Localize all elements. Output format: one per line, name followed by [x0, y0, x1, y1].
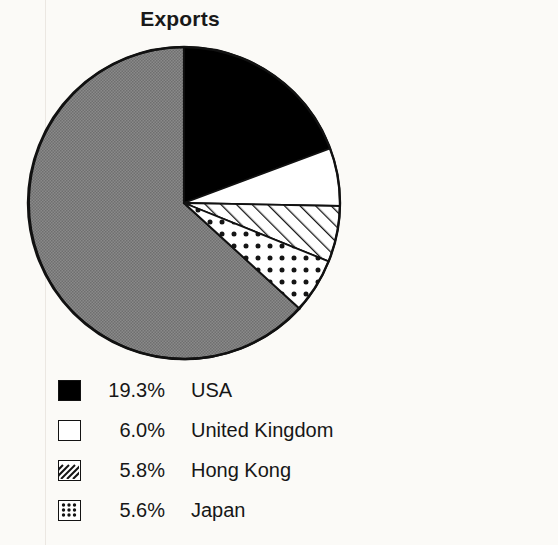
dot-grid-icon [59, 501, 79, 519]
legend-percent: 6.0% [81, 419, 169, 442]
legend-percent: 19.3% [81, 379, 169, 402]
legend-label: United Kingdom [169, 419, 333, 442]
dot-grid-swatch [58, 500, 81, 521]
diagonal-hatch-icon [59, 461, 79, 479]
legend-label: Hong Kong [169, 459, 291, 482]
legend-item-united-kingdom: 6.0% United Kingdom [58, 410, 518, 450]
diagonal-hatch-swatch [58, 460, 81, 481]
pie-chart [0, 0, 400, 380]
pie-chart-svg [0, 0, 400, 380]
solid-black-swatch [58, 380, 81, 401]
solid-white-swatch [58, 420, 81, 441]
legend-label: USA [169, 379, 232, 402]
legend-label: Japan [169, 499, 246, 522]
legend-item-japan: 5.6% Japan [58, 490, 518, 530]
legend-percent: 5.6% [81, 499, 169, 522]
legend-percent: 5.8% [81, 459, 169, 482]
legend-item-hong-kong: 5.8% Hong Kong [58, 450, 518, 490]
chart-legend: 19.3% USA 6.0% United Kingdom [58, 370, 518, 530]
legend-item-usa: 19.3% USA [58, 370, 518, 410]
chart-page: Exports [0, 0, 558, 545]
